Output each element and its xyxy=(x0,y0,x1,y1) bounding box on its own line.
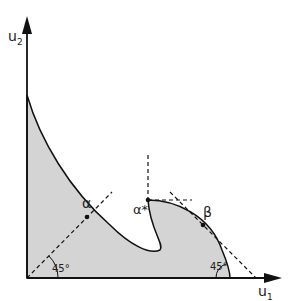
feasible-region xyxy=(27,95,230,278)
x-axis-arrow-icon xyxy=(264,273,282,283)
angle-right-label: 45° xyxy=(210,261,228,272)
utility-possibility-diagram: u2 u1 α α* β 45° 45° xyxy=(0,0,295,301)
y-axis-arrow-icon xyxy=(22,16,32,34)
alpha-point xyxy=(85,215,90,220)
y-axis-label: u2 xyxy=(8,28,23,47)
angle-left-label: 45° xyxy=(52,263,70,274)
alpha-label: α xyxy=(82,195,91,211)
beta-label: β xyxy=(203,204,212,220)
beta-point xyxy=(201,223,206,228)
alpha-star-label: α* xyxy=(133,202,149,217)
x-axis-label: u1 xyxy=(258,283,273,301)
